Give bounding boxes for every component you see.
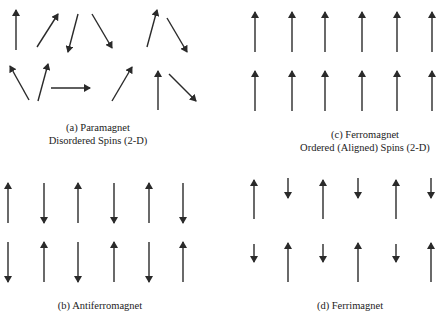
- caption-antiferromagnet: (b) Antiferromagnet: [40, 299, 160, 312]
- magnetic-ordering-diagram: [0, 0, 445, 323]
- caption-ferrimagnet: (d) Ferrimagnet: [290, 299, 410, 312]
- spin-arrow-icon: [169, 74, 196, 101]
- ferromagnet-spins: [255, 12, 432, 111]
- spin-arrow-icon: [10, 66, 29, 100]
- spin-arrow-icon: [167, 18, 187, 52]
- spin-arrow-icon: [38, 64, 48, 101]
- caption-antiferromagnet-title: (b) Antiferromagnet: [40, 299, 160, 312]
- spin-arrow-icon: [112, 67, 132, 101]
- spin-arrow-icon: [92, 14, 112, 48]
- caption-ferrimagnet-title: (d) Ferrimagnet: [290, 299, 410, 312]
- caption-ferromagnet-subtitle: Ordered (Aligned) Spins (2-D): [280, 141, 445, 154]
- ferrimagnet-spins: [254, 178, 431, 282]
- caption-paramagnet: (a) Paramagnet Disordered Spins (2-D): [38, 121, 158, 147]
- caption-paramagnet-title: (a) Paramagnet: [38, 121, 158, 134]
- antiferromagnet-spins: [8, 183, 183, 282]
- caption-paramagnet-subtitle: Disordered Spins (2-D): [38, 134, 158, 147]
- caption-ferromagnet: (c) Ferromagnet Ordered (Aligned) Spins …: [280, 128, 445, 154]
- caption-ferromagnet-title: (c) Ferromagnet: [280, 128, 445, 141]
- spin-arrow-icon: [68, 14, 78, 52]
- spin-arrow-icon: [147, 10, 157, 47]
- spin-arrow-icon: [37, 14, 58, 47]
- paramagnet-spins: [10, 10, 196, 110]
